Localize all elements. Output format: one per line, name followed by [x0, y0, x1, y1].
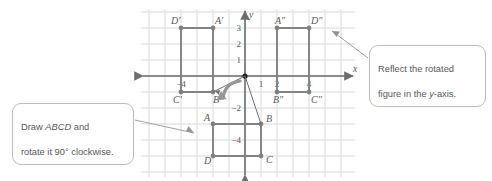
vertex-point	[275, 26, 280, 31]
y-axis-label: y	[248, 10, 254, 20]
vertex-point	[259, 154, 264, 159]
callout-draw-and-rotate: Draw ABCD and rotate it 90° clockwise.	[12, 103, 134, 165]
callout-right-line1: Reflect the rotated	[378, 64, 454, 74]
callout-left-line2: rotate it 90° clockwise.	[21, 147, 114, 157]
vertex-label: C′	[173, 94, 183, 105]
vertex-label: A′	[214, 15, 224, 26]
vertex-label: D′	[170, 15, 181, 26]
callout-right-line2-prefix: figure in the	[378, 89, 429, 99]
vertex-point	[179, 26, 184, 31]
callout-left-line1-italic: ABCD	[45, 122, 71, 132]
callout-left-line1-prefix: Draw	[21, 122, 45, 132]
callout-reflect-in-y-axis: Reflect the rotated figure in the y-axis…	[369, 45, 486, 107]
vertex-label: B″	[273, 94, 284, 105]
vertex-label: D″	[310, 15, 323, 26]
y-tick-label: 3	[237, 23, 242, 33]
vertex-point	[211, 122, 216, 127]
vertex-label: A″	[274, 15, 286, 26]
x-axis-label: x	[352, 64, 358, 74]
x-tick-label: 1	[259, 79, 264, 89]
vertex-label: C	[266, 154, 273, 165]
y-tick-label: 2	[237, 39, 242, 49]
diagram-canvas: xy−4124321−2−4ABCDA′B′C′D′A″B″C″D″ Draw …	[0, 0, 492, 181]
vertex-point	[307, 26, 312, 31]
vertex-label: B	[266, 113, 272, 124]
vertex-label: C″	[311, 94, 323, 105]
callout-right-line2-suffix: -axis.	[434, 89, 456, 99]
vertex-label: A	[203, 112, 211, 123]
y-tick-label: −2	[231, 103, 241, 113]
vertex-point	[211, 26, 216, 31]
plot-background	[141, 9, 355, 177]
callout-left-line1-suffix: and	[71, 122, 89, 132]
y-tick-label: 1	[237, 55, 242, 65]
vertex-label: D	[203, 155, 212, 166]
y-tick-label: −4	[231, 135, 241, 145]
vertex-point	[211, 154, 216, 159]
